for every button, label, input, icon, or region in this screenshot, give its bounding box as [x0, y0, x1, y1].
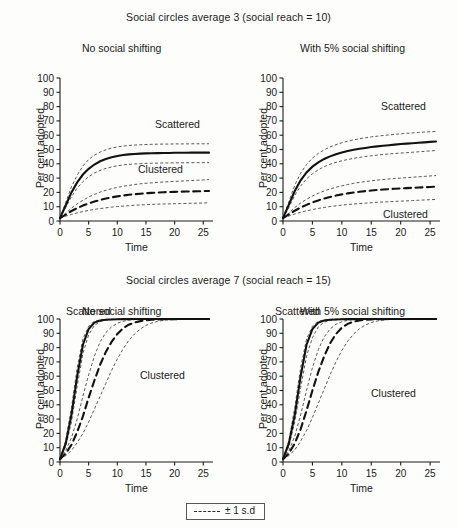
x-tick-label: 0 [57, 227, 63, 238]
y-tick-label: 10 [266, 201, 278, 212]
y-tick-label: 0 [48, 457, 54, 468]
y-tick-label: 0 [271, 216, 277, 227]
x-tick-label: 25 [425, 227, 437, 238]
y-tick-label: 90 [266, 87, 278, 98]
x-tick-label: 5 [310, 227, 316, 238]
x-tick-label: 0 [280, 468, 286, 479]
plot-area: 01020304050607080901000510152025 [283, 319, 442, 468]
plot-area: 01020304050607080901000510152025 [60, 78, 215, 227]
x-tick-label: 15 [366, 227, 378, 238]
panel-subtitle-top-left: No social shifting [82, 42, 161, 54]
curve-label-scattered: Scattered [155, 118, 200, 130]
curve-label-clustered: Clustered [383, 208, 428, 220]
series-line [60, 319, 209, 459]
x-tick-label: 5 [310, 468, 316, 479]
x-axis-label: Time [107, 482, 167, 494]
x-axis-label: Time [332, 482, 392, 494]
x-tick-label: 5 [86, 468, 92, 479]
x-axis-label: Time [332, 241, 392, 253]
figure-canvas: Social circles average 3 (social reach =… [0, 0, 457, 528]
axis-lines [60, 78, 213, 221]
x-tick-label: 10 [112, 468, 124, 479]
plot-area: 01020304050607080901000510152025 [60, 319, 215, 468]
series-line [60, 191, 209, 218]
y-axis-label: Per cent adopted [257, 108, 269, 188]
y-tick-label: 10 [43, 201, 55, 212]
curve-label-clustered: Clustered [371, 387, 416, 399]
y-tick-label: 20 [266, 187, 278, 198]
x-tick-label: 15 [140, 468, 152, 479]
x-tick-label: 20 [395, 227, 407, 238]
x-tick-label: 25 [198, 468, 210, 479]
series-line [60, 163, 209, 218]
y-tick-label: 100 [37, 314, 54, 325]
series-line [60, 180, 209, 218]
panel-top-right: 01020304050607080901000510152025Per cent… [283, 78, 436, 221]
y-tick-label: 10 [43, 442, 55, 453]
curve-label-clustered: Clustered [140, 369, 185, 381]
x-axis-label: Time [107, 241, 167, 253]
legend-label: ± 1 s.d [225, 506, 255, 516]
legend-dashed-line-icon [194, 511, 220, 512]
section-title-b: Social circles average 7 (social reach =… [0, 274, 457, 286]
y-tick-label: 90 [43, 87, 55, 98]
y-tick-label: 20 [43, 187, 55, 198]
y-tick-label: 0 [271, 457, 277, 468]
y-tick-label: 20 [266, 428, 278, 439]
y-tick-label: 90 [43, 328, 55, 339]
panel-bottom-right: 01020304050607080901000510152025Per cent… [283, 319, 436, 462]
x-tick-label: 5 [86, 227, 92, 238]
panel-subtitle-top-right: With 5% social shifting [300, 42, 405, 54]
x-tick-label: 20 [395, 468, 407, 479]
y-tick-label: 100 [37, 73, 54, 84]
y-tick-label: 20 [43, 428, 55, 439]
series-line [283, 141, 436, 218]
y-tick-label: 90 [266, 328, 278, 339]
x-tick-label: 10 [112, 227, 124, 238]
curve-label-scattered: Scattered [66, 305, 111, 317]
y-tick-label: 100 [260, 73, 277, 84]
x-tick-label: 20 [169, 468, 181, 479]
x-tick-label: 15 [140, 227, 152, 238]
y-axis-label: Per cent adopted [34, 108, 46, 188]
section-title-a: Social circles average 3 (social reach =… [0, 11, 457, 23]
x-tick-label: 15 [366, 468, 378, 479]
curve-label-clustered: Clustered [138, 163, 183, 175]
x-tick-label: 25 [425, 468, 437, 479]
y-tick-label: 0 [48, 216, 54, 227]
x-tick-label: 25 [198, 227, 210, 238]
x-tick-label: 10 [336, 227, 348, 238]
curve-label-scattered: Scattered [381, 100, 426, 112]
x-tick-label: 20 [169, 227, 181, 238]
panel-top-left: 01020304050607080901000510152025Per cent… [60, 78, 209, 221]
x-tick-label: 0 [57, 468, 63, 479]
y-axis-label: Per cent adopted [34, 349, 46, 429]
y-axis-label: Per cent adopted [257, 349, 269, 429]
curve-label-scattered: Scattered [275, 305, 320, 317]
x-tick-label: 10 [336, 468, 348, 479]
x-tick-label: 0 [280, 227, 286, 238]
y-tick-label: 10 [266, 442, 278, 453]
panel-bottom-left: 01020304050607080901000510152025Per cent… [60, 319, 209, 462]
legend-box: ± 1 s.d [186, 503, 265, 520]
